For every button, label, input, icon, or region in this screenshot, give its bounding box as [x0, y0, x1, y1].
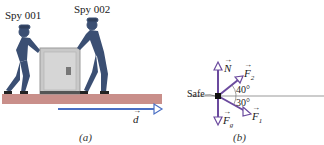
caption-b: (b): [233, 131, 246, 143]
angle-f2-label: 40°: [236, 84, 250, 95]
displacement-arrow: [58, 104, 162, 114]
spy-002-label: Spy 002: [74, 3, 110, 15]
displacement-label: →d: [133, 113, 139, 125]
figure-canvas: [0, 0, 324, 145]
angle-f1-label: 30°: [236, 97, 250, 108]
spy-002-figure: [77, 18, 109, 94]
floor: [2, 94, 162, 104]
safe-dot: [215, 93, 221, 99]
spy-001-figure: [4, 25, 40, 94]
vector-f1-label: →F1: [252, 110, 262, 125]
safe-label: Safe: [187, 88, 205, 99]
vector-f2-label: →F2: [244, 67, 254, 82]
caption-a: (a): [79, 131, 92, 143]
spy-001-label: Spy 001: [5, 9, 41, 21]
vector-n-label: →N: [224, 62, 231, 74]
vector-fg-label: →Fg: [223, 114, 233, 129]
